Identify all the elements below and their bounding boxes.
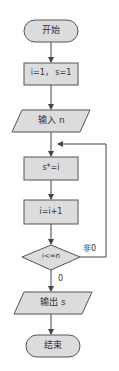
output-label: 输出 s [14, 298, 92, 307]
start-label: 开始 [24, 26, 78, 35]
flowchart-canvas [0, 0, 119, 371]
condition-label: i<=n [22, 253, 80, 260]
init-label: i=1， s=1 [24, 69, 78, 77]
input-label: 输入 n [13, 116, 90, 125]
true-branch-label: 非0 [83, 245, 96, 253]
increment-label: i=i+1 [24, 208, 78, 216]
end-label: 结束 [26, 341, 80, 350]
false-branch-label: 0 [58, 275, 63, 283]
multiply-label: s*=i [24, 164, 78, 172]
